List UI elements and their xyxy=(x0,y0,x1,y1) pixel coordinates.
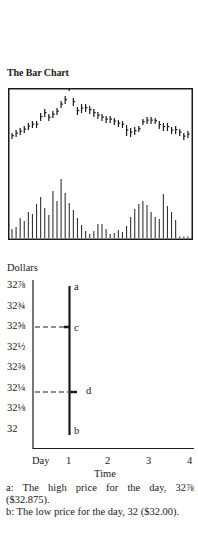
note-high: a: The high price for the day, 32⅞ ($32.… xyxy=(6,482,194,505)
note-low: b: The low price for the day, 32 ($32.00… xyxy=(6,506,194,518)
single-bar-explainer-chart xyxy=(0,270,198,470)
price-volume-bar-chart xyxy=(8,88,193,240)
close-label: d xyxy=(86,385,91,396)
high-label: a xyxy=(74,281,79,292)
x-axis-label: Time xyxy=(0,468,198,479)
open-label: c xyxy=(74,322,79,333)
x-tick-2: 2 xyxy=(105,455,110,466)
low-label: b xyxy=(74,425,79,436)
x-tick-1: 1 xyxy=(66,455,71,466)
x-tick-3: 3 xyxy=(146,455,151,466)
x-tick-4: 4 xyxy=(187,455,192,466)
x-tick-day: Day xyxy=(32,455,50,466)
chart-title: The Bar Chart xyxy=(7,67,69,78)
price-bars xyxy=(12,88,190,140)
volume-bars xyxy=(12,179,188,238)
